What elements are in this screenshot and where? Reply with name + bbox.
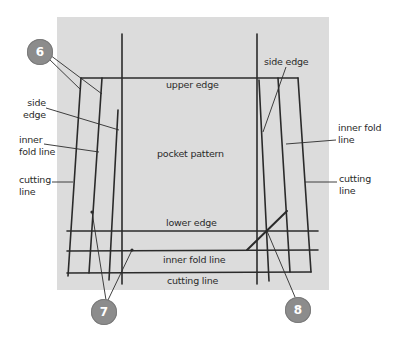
right-cutting-label-line2: line: [339, 185, 371, 197]
left-side-edge-label-line2: edge: [22, 109, 46, 121]
left-cutting-label-line1: cutting: [19, 174, 51, 186]
pocket-pattern-label: pocket pattern: [157, 148, 224, 160]
pattern-diagram: [0, 0, 394, 344]
left-cutting-label: cutting line: [19, 174, 51, 198]
callout-8: 8: [285, 297, 311, 323]
left-side-edge-label-line1: side: [22, 97, 46, 109]
left-side-edge-label: side edge: [22, 97, 46, 121]
inner-fold-line-bottom-label: inner fold line: [163, 254, 225, 266]
right-inner-fold-label-line1: inner fold: [338, 122, 381, 134]
right-cutting-label: cutting line: [339, 173, 371, 197]
right-inner-fold-label: inner fold line: [338, 122, 381, 146]
right-inner-fold-label-line2: line: [338, 134, 381, 146]
left-inner-fold-label-line2: fold line: [19, 146, 55, 158]
upper-edge-label: upper edge: [166, 79, 219, 91]
cutting-line-bottom-label: cutting line: [167, 275, 218, 287]
lower-edge-label: lower edge: [166, 217, 217, 229]
inner-fold-bottom-line: [67, 250, 318, 251]
callout-7-dot-b: [130, 248, 133, 251]
right-cutting-label-line1: cutting: [339, 173, 371, 185]
callout-7: 7: [91, 299, 117, 325]
callout-7-dot-a: [90, 210, 93, 213]
right-side-edge-label: side edge: [264, 56, 308, 68]
left-cutting-label-line2: line: [19, 186, 51, 198]
cutting-bottom-line: [67, 272, 311, 273]
callout-6: 6: [27, 39, 53, 65]
left-inner-fold-label: inner fold line: [19, 134, 55, 158]
left-inner-fold-label-line1: inner: [19, 134, 55, 146]
